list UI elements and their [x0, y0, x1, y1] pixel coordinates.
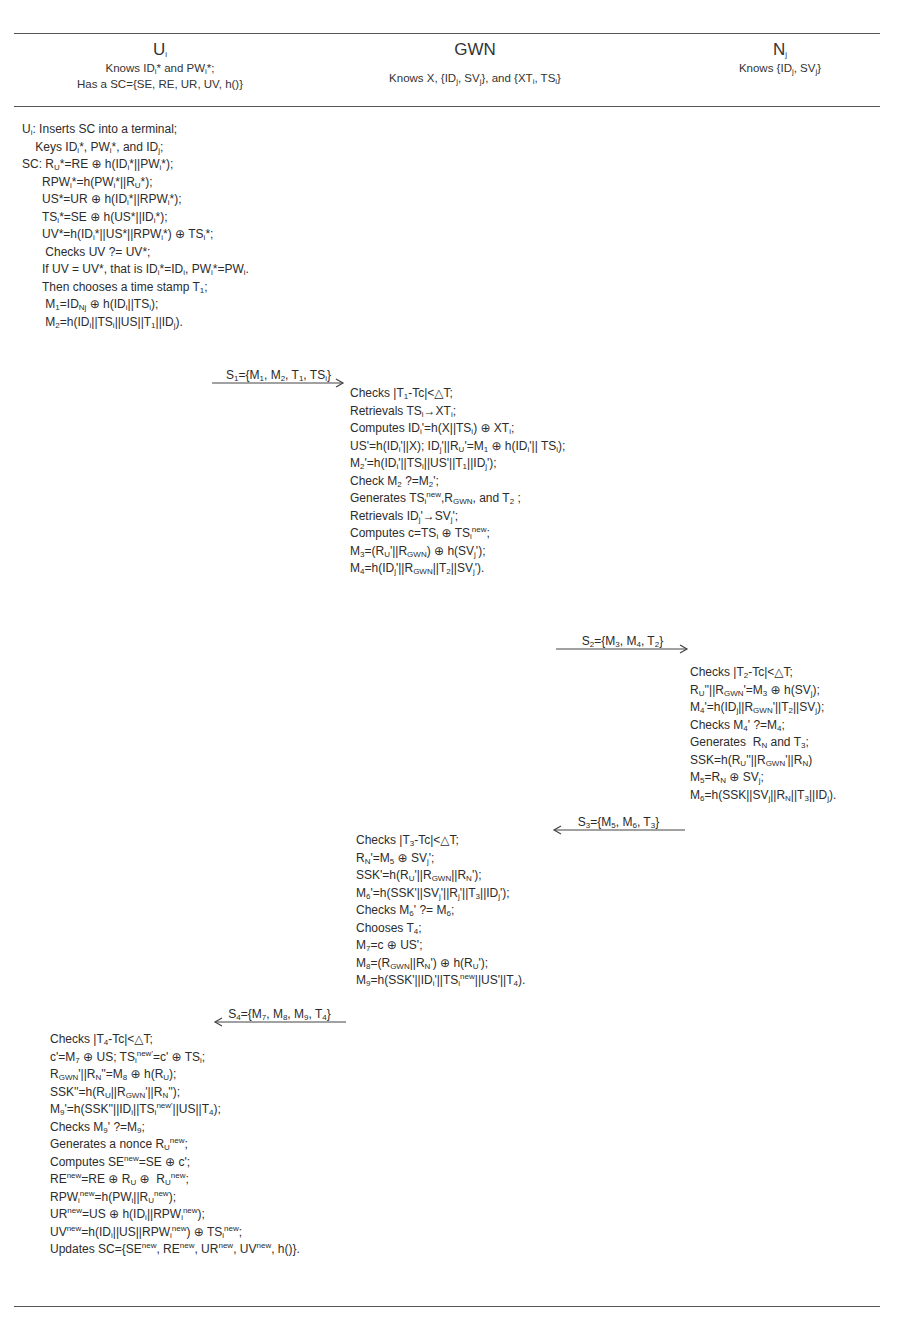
protocol-step: TSi*=SE ⊕ h(US*||IDi*);: [22, 209, 249, 227]
protocol-step: RGWN'||RN''=M8 ⊕ h(RU);: [50, 1066, 300, 1084]
protocol-step: Computes c=TSi ⊕ TSinew;: [350, 525, 565, 543]
arrow-right-icon: [212, 378, 345, 388]
protocol-step: M6'=h(SSK'||SVj'||Rj'||T3||IDj');: [356, 885, 525, 903]
protocol-step: Checks |T3-Tc|<△T;: [356, 832, 525, 850]
protocol-step: Updates SC={SEnew, REnew, URnew, UVnew, …: [50, 1241, 300, 1259]
top-rule: [14, 33, 880, 34]
protocol-step: Checks |T1-Tc|<△T;: [350, 385, 565, 403]
gwn-knowledge: Knows X, {IDj, SVj}, and {XTi, TSi}: [330, 70, 620, 86]
protocol-step: Chooses T4;: [356, 920, 525, 938]
protocol-step: US*=UR ⊕ h(IDi*||RPWi*);: [22, 191, 249, 209]
protocol-step: UVnew=h(IDi||US||RPWinew) ⊕ TSinew;: [50, 1224, 300, 1242]
protocol-step: Checks M6' ?= M6;: [356, 902, 525, 920]
protocol-step: M2'=h(IDi'||TSi||US'||T1||IDj');: [350, 455, 565, 473]
protocol-step: Computes SEnew=SE ⊕ c';: [50, 1154, 300, 1172]
message-s3: S3={M5, M6, T3}: [552, 803, 685, 835]
protocol-step: Checks M4' ?=M4;: [690, 717, 836, 735]
message-s2: S2={M3, M4, T2}: [556, 624, 689, 654]
gwn-steps-1: Checks |T1-Tc|<△T;Retrievals TSi→XTi;Com…: [350, 385, 565, 578]
protocol-step: Checks |T2-Tc|<△T;: [690, 664, 836, 682]
user-name: Ui: [40, 40, 280, 60]
user-login-steps: Ui: Inserts SC into a terminal; Keys IDi…: [22, 121, 249, 331]
user-smartcard: Has a SC={SE, RE, UR, UV, h()}: [40, 76, 280, 92]
protocol-step: Keys IDi*, PWi*, and IDj;: [22, 139, 249, 157]
protocol-step: RPWi*=h(PWi*||RU*);: [22, 174, 249, 192]
bottom-rule: [14, 1306, 880, 1307]
node-header: Nj Knows {IDj, SVj}: [680, 40, 880, 76]
protocol-step: Then chooses a time stamp T1;: [22, 279, 249, 297]
protocol-step: Checks UV ?= UV*;: [22, 244, 249, 262]
protocol-step: RU''||RGWN'=M3 ⊕ h(SVj);: [690, 682, 836, 700]
protocol-step: SSK=h(RU''||RGWN'||RN): [690, 752, 836, 770]
protocol-step: M9'=h(SSK''||IDi||TSinew'||US||T4);: [50, 1101, 300, 1119]
gwn-header: GWN Knows X, {IDj, SVj}, and {XTi, TSi}: [330, 40, 620, 86]
protocol-step: UV*=h(IDi*||US*||RPWi*) ⊕ TSi*;: [22, 226, 249, 244]
protocol-step: M9=h(SSK'||IDi'||TSinew||US'||T4).: [356, 972, 525, 990]
protocol-step: Generates TSinew,RGWN, and T2 ;: [350, 490, 565, 508]
protocol-step: RPWinew=h(PWi||RUnew);: [50, 1189, 300, 1207]
message-s4: S4={M7, M8, M9, T4}: [213, 995, 346, 1027]
protocol-step: Checks |T4-Tc|<△T;: [50, 1031, 300, 1049]
protocol-step: c'=M7 ⊕ US; TSinew'=c' ⊕ TSi;: [50, 1049, 300, 1067]
arrow-left-icon: [213, 1017, 346, 1027]
protocol-step: M7=c ⊕ US';: [356, 937, 525, 955]
node-name: Nj: [680, 40, 880, 60]
protocol-step: M4'=h(IDj||RGWN'||T2||SVj);: [690, 699, 836, 717]
gwn-steps-2: Checks |T3-Tc|<△T;RN'=M5 ⊕ SVj';SSK'=h(R…: [356, 832, 525, 990]
protocol-step: M6=h(SSK||SVj||RN||T3||IDj).: [690, 787, 836, 805]
protocol-step: M8=(RGWN||RN') ⊕ h(RU');: [356, 955, 525, 973]
protocol-step: Retrievals IDj'→SVj';: [350, 508, 565, 526]
protocol-step: REnew=RE ⊕ RU ⊕ RUnew;: [50, 1171, 300, 1189]
protocol-step: SSK''=h(RU||RGWN'||RN'');: [50, 1084, 300, 1102]
protocol-step: URnew=US ⊕ h(IDi||RPWinew);: [50, 1206, 300, 1224]
node-knowledge: Knows {IDj, SVj}: [680, 60, 880, 76]
node-steps: Checks |T2-Tc|<△T;RU''||RGWN'=M3 ⊕ h(SVj…: [690, 664, 836, 804]
protocol-step: Generates RN and T3;: [690, 734, 836, 752]
protocol-step: RN'=M5 ⊕ SVj';: [356, 850, 525, 868]
protocol-step: M1=IDNj ⊕ h(IDi||TSi);: [22, 296, 249, 314]
protocol-step: M2=h(IDi||TSi||US||T1||IDj).: [22, 314, 249, 332]
protocol-step: M3=(RU'||RGWN) ⊕ h(SVj');: [350, 543, 565, 561]
message-s1: S1={M1, M2, T1, TSi}: [212, 356, 345, 388]
gwn-name: GWN: [330, 40, 620, 60]
protocol-step: Generates a nonce RUnew;: [50, 1136, 300, 1154]
protocol-step: Retrievals TSi→XTi;: [350, 403, 565, 421]
protocol-step: US'=h(IDi'||X); IDj'||RU'=M1 ⊕ h(IDi'|| …: [350, 438, 565, 456]
protocol-step: M4=h(IDj'||RGWN||T2||SVj').: [350, 560, 565, 578]
user-final-steps: Checks |T4-Tc|<△T;c'=M7 ⊕ US; TSinew'=c'…: [50, 1031, 300, 1259]
protocol-step: M5=RN ⊕ SVj;: [690, 769, 836, 787]
arrow-left-icon: [552, 825, 685, 835]
protocol-step: Computes IDi'=h(X||TSi) ⊕ XTi;: [350, 420, 565, 438]
protocol-step: SC: RU*=RE ⊕ h(IDi*||PWi*);: [22, 156, 249, 174]
arrow-right-icon: [556, 644, 689, 654]
protocol-step: Checks M9' ?=M9;: [50, 1119, 300, 1137]
header-bottom-rule: [14, 106, 880, 107]
user-knowledge: Knows IDi* and PWi*;: [40, 60, 280, 76]
protocol-step: If UV = UV*, that is IDi*=IDi, PWi*=PWi.: [22, 261, 249, 279]
protocol-step: Check M2 ?=M2';: [350, 473, 565, 491]
user-header: Ui Knows IDi* and PWi*; Has a SC={SE, RE…: [40, 40, 280, 92]
protocol-step: SSK'=h(RU'||RGWN||RN');: [356, 867, 525, 885]
protocol-step: Ui: Inserts SC into a terminal;: [22, 121, 249, 139]
